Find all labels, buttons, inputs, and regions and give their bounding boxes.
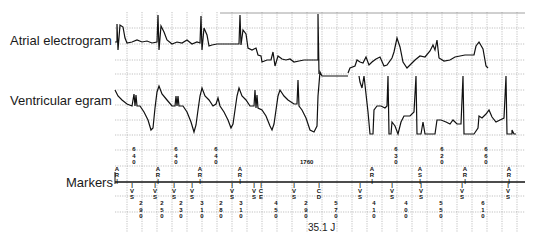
marker-below: |CE xyxy=(258,182,264,200)
marker-below: |CD xyxy=(316,182,322,200)
atrial-label: Atrial electrogram xyxy=(10,33,112,48)
marker-above: AR| xyxy=(369,166,375,184)
marker-below: |VS xyxy=(171,182,177,200)
atrial-interval: 630 xyxy=(393,146,399,166)
ventricular-interval: 290 xyxy=(138,200,144,220)
marker-below: |VS xyxy=(229,182,235,200)
marker-above: AR| xyxy=(237,166,243,184)
ventricular-label: Ventricular egram xyxy=(10,93,112,108)
atrial-interval: 640 xyxy=(173,146,179,166)
energy-annotation: 35.1 J xyxy=(308,222,335,233)
marker-below: |VS xyxy=(357,182,363,200)
ventricular-interval: 410 xyxy=(371,200,377,220)
long-interval-annotation: 1760 xyxy=(300,159,313,165)
ventricular-interval: 450 xyxy=(273,200,279,220)
marker-below: |VS xyxy=(152,182,158,200)
atrial-interval: 640 xyxy=(131,146,137,166)
ventricular-interval: 230 xyxy=(178,200,184,220)
ventricular-interval: 310 xyxy=(199,200,205,220)
marker-below: |VS xyxy=(505,182,511,200)
ventricular-interval: 610 xyxy=(480,200,486,220)
marker-below: |VS xyxy=(189,182,195,200)
ventricular-interval: 310 xyxy=(238,200,244,220)
atrial-interval: 640 xyxy=(213,146,219,166)
ventricular-interval: 570 xyxy=(333,200,339,220)
marker-below: |VS xyxy=(459,182,465,200)
marker-below: |VS xyxy=(418,182,424,200)
ventricular-trace xyxy=(115,72,516,134)
marker-below: |VS xyxy=(129,182,135,200)
ventricular-interval: 400 xyxy=(403,200,409,220)
marker-above: AR| xyxy=(114,166,120,184)
ventricular-interval: 290 xyxy=(303,200,309,220)
atrial-interval: 620 xyxy=(439,146,445,166)
markers-label: Markers xyxy=(66,175,113,190)
ventricular-interval: 550 xyxy=(438,200,444,220)
marker-below: |VS xyxy=(389,182,395,200)
marker-below: |VS xyxy=(251,182,257,200)
marker-below: |VS xyxy=(291,182,297,200)
ventricular-interval: 250 xyxy=(159,200,165,220)
ventricular-interval: 280 xyxy=(218,200,224,220)
atrial-interval: 660 xyxy=(483,146,489,166)
marker-above: AR| xyxy=(197,166,203,184)
